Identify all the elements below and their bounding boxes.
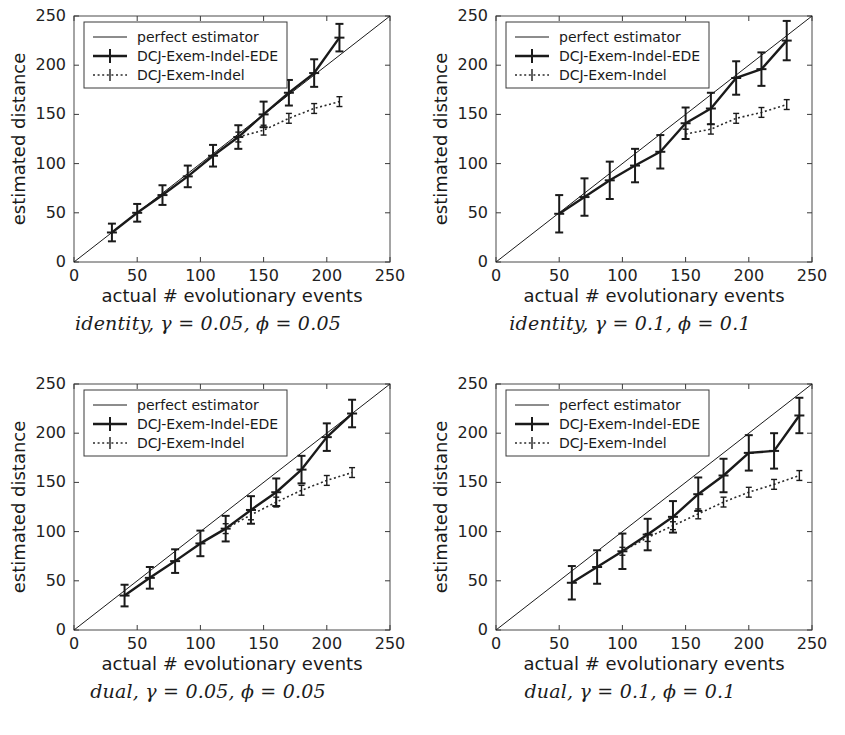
x-tick-label: 200 bbox=[734, 634, 765, 653]
legend-label: DCJ-Exem-Indel-EDE bbox=[137, 48, 278, 64]
chart-svg-3: 050100150200250050100150200250actual # e… bbox=[430, 368, 830, 688]
chart-svg-0: 050100150200250050100150200250actual # e… bbox=[8, 0, 408, 320]
x-tick-label: 150 bbox=[670, 634, 701, 653]
x-tick-label: 150 bbox=[248, 266, 279, 285]
series-dcj-exem-indel bbox=[223, 468, 355, 534]
x-tick-label: 250 bbox=[797, 634, 828, 653]
x-tick-label: 150 bbox=[248, 634, 279, 653]
x-tick-label: 200 bbox=[312, 266, 343, 285]
legend-label: perfect estimator bbox=[137, 29, 259, 45]
subplot-dual-005: 050100150200250050100150200250actual # e… bbox=[8, 368, 408, 735]
x-tick-label: 250 bbox=[375, 634, 406, 653]
legend-label: perfect estimator bbox=[137, 397, 259, 413]
x-tick-label: 200 bbox=[734, 266, 765, 285]
plot-area-2: 050100150200250050100150200250actual # e… bbox=[8, 368, 408, 688]
x-tick-label: 0 bbox=[69, 266, 79, 285]
x-axis-label: actual # evolutionary events bbox=[101, 653, 362, 674]
y-tick-label: 50 bbox=[46, 203, 66, 222]
y-tick-label: 0 bbox=[56, 620, 66, 639]
indel-line bbox=[622, 476, 799, 552]
x-tick-label: 50 bbox=[127, 266, 147, 285]
legend-label: DCJ-Exem-Indel-EDE bbox=[137, 416, 278, 432]
y-tick-label: 0 bbox=[478, 620, 488, 639]
series-dcj-exem-indel bbox=[683, 100, 790, 139]
y-tick-label: 50 bbox=[468, 203, 488, 222]
legend-label: perfect estimator bbox=[559, 397, 681, 413]
x-tick-label: 100 bbox=[185, 634, 216, 653]
figure-panel-grid: 050100150200250050100150200250actual # e… bbox=[0, 0, 845, 735]
x-tick-label: 250 bbox=[797, 266, 828, 285]
legend-label: DCJ-Exem-Indel bbox=[137, 435, 245, 451]
y-tick-label: 100 bbox=[457, 154, 488, 173]
chart-svg-1: 050100150200250050100150200250actual # e… bbox=[430, 0, 830, 320]
y-tick-label: 150 bbox=[35, 472, 66, 491]
legend-label: DCJ-Exem-Indel bbox=[559, 435, 667, 451]
y-tick-label: 250 bbox=[35, 6, 66, 25]
y-tick-label: 200 bbox=[35, 423, 66, 442]
x-tick-label: 0 bbox=[491, 634, 501, 653]
subplot-caption-3: dual, γ = 0.1, ϕ = 0.1 bbox=[430, 680, 830, 702]
subplot-caption-1: identity, γ = 0.1, ϕ = 0.1 bbox=[430, 312, 830, 334]
subplot-identity-01: 050100150200250050100150200250actual # e… bbox=[430, 0, 830, 368]
legend-label: DCJ-Exem-Indel-EDE bbox=[559, 48, 700, 64]
y-tick-label: 200 bbox=[35, 55, 66, 74]
legend-label: perfect estimator bbox=[559, 29, 681, 45]
y-tick-label: 100 bbox=[35, 522, 66, 541]
y-tick-label: 0 bbox=[56, 252, 66, 271]
subplot-dual-01: 050100150200250050100150200250actual # e… bbox=[430, 368, 830, 735]
y-axis-label: estimated distance bbox=[8, 53, 29, 226]
x-tick-label: 250 bbox=[375, 266, 406, 285]
x-tick-label: 200 bbox=[312, 634, 343, 653]
x-tick-label: 0 bbox=[491, 266, 501, 285]
plot-area-3: 050100150200250050100150200250actual # e… bbox=[430, 368, 830, 688]
x-axis-label: actual # evolutionary events bbox=[101, 285, 362, 306]
legend-label: DCJ-Exem-Indel bbox=[559, 67, 667, 83]
chart-svg-2: 050100150200250050100150200250actual # e… bbox=[8, 368, 408, 688]
legend: perfect estimatorDCJ-Exem-Indel-EDEDCJ-E… bbox=[84, 22, 287, 88]
legend-label: DCJ-Exem-Indel bbox=[137, 67, 245, 83]
y-tick-label: 100 bbox=[457, 522, 488, 541]
plot-area-1: 050100150200250050100150200250actual # e… bbox=[430, 0, 830, 320]
x-tick-label: 50 bbox=[549, 634, 569, 653]
y-axis-label: estimated distance bbox=[430, 53, 451, 226]
y-tick-label: 150 bbox=[35, 104, 66, 123]
y-tick-label: 200 bbox=[457, 423, 488, 442]
subplot-caption-0: identity, γ = 0.05, ϕ = 0.05 bbox=[8, 312, 408, 334]
subplot-identity-005: 050100150200250050100150200250actual # e… bbox=[8, 0, 408, 368]
y-tick-label: 250 bbox=[457, 6, 488, 25]
y-tick-label: 250 bbox=[457, 374, 488, 393]
legend: perfect estimatorDCJ-Exem-Indel-EDEDCJ-E… bbox=[84, 390, 287, 456]
x-tick-label: 50 bbox=[549, 266, 569, 285]
y-tick-label: 0 bbox=[478, 252, 488, 271]
x-tick-label: 100 bbox=[607, 634, 638, 653]
y-tick-label: 200 bbox=[457, 55, 488, 74]
subplot-caption-2: dual, γ = 0.05, ϕ = 0.05 bbox=[8, 680, 408, 702]
legend: perfect estimatorDCJ-Exem-Indel-EDEDCJ-E… bbox=[506, 22, 709, 88]
y-tick-label: 50 bbox=[468, 571, 488, 590]
x-axis-label: actual # evolutionary events bbox=[523, 653, 784, 674]
x-tick-label: 100 bbox=[607, 266, 638, 285]
y-axis-label: estimated distance bbox=[430, 421, 451, 594]
x-tick-label: 150 bbox=[670, 266, 701, 285]
y-tick-label: 150 bbox=[457, 104, 488, 123]
legend-label: DCJ-Exem-Indel-EDE bbox=[559, 416, 700, 432]
plot-area-0: 050100150200250050100150200250actual # e… bbox=[8, 0, 408, 320]
y-tick-label: 150 bbox=[457, 472, 488, 491]
y-tick-label: 100 bbox=[35, 154, 66, 173]
legend: perfect estimatorDCJ-Exem-Indel-EDEDCJ-E… bbox=[506, 390, 709, 456]
y-tick-label: 250 bbox=[35, 374, 66, 393]
x-tick-label: 50 bbox=[127, 634, 147, 653]
x-tick-label: 0 bbox=[69, 634, 79, 653]
x-axis-label: actual # evolutionary events bbox=[523, 285, 784, 306]
y-axis-label: estimated distance bbox=[8, 421, 29, 594]
x-tick-label: 100 bbox=[185, 266, 216, 285]
y-tick-label: 50 bbox=[46, 571, 66, 590]
